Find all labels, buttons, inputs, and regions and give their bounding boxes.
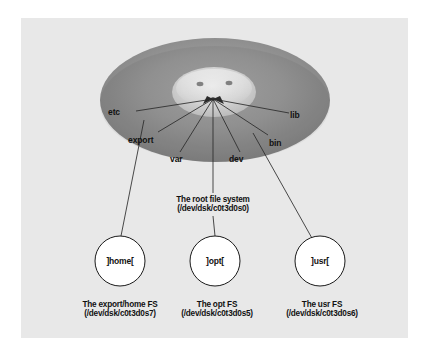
connector-opt [213, 216, 215, 236]
directory-label-var: var [170, 155, 182, 164]
fs-mount-label-usr: ]usr[ [295, 257, 345, 266]
fs-caption-usr: The usr FS (/dev/dsk/c0t3d0s6) [262, 301, 382, 319]
directory-label-etc: etc [108, 108, 120, 117]
diagram-page: etc lib export bin var dev The root file… [0, 0, 429, 352]
directory-label-dev: dev [229, 155, 243, 164]
fs-caption-opt: The opt FS (/dev/dsk/c0t3d0s5) [157, 301, 277, 319]
fs-device-usr: (/dev/dsk/c0t3d0s6) [262, 310, 382, 319]
fs-mount-label-home: ]home[ [95, 257, 145, 266]
root-fs-caption: The root file system (/dev/dsk/c0t3d0s0) [153, 196, 273, 214]
spindle-screw-left-icon [197, 82, 204, 86]
directory-label-export: export [128, 136, 153, 145]
root-fs-device: (/dev/dsk/c0t3d0s0) [153, 205, 273, 214]
fs-device-opt: (/dev/dsk/c0t3d0s5) [157, 310, 277, 319]
directory-label-bin: bin [269, 139, 281, 148]
fs-mount-label-opt: ]opt[ [190, 257, 240, 266]
directory-label-lib: lib [290, 111, 300, 120]
spindle-screw-right-icon [226, 81, 233, 85]
